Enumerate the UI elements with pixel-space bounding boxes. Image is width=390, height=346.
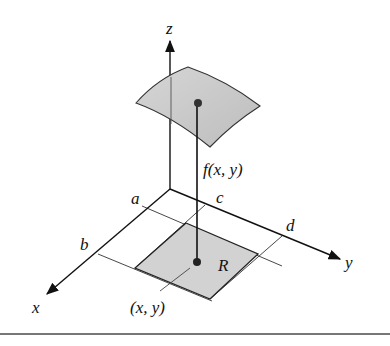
label-c: c <box>216 188 224 207</box>
surface-point <box>194 99 202 107</box>
region-label: R <box>217 256 229 275</box>
point-label: (x, y) <box>130 298 165 317</box>
label-a: a <box>131 189 140 208</box>
label-b: b <box>80 235 89 254</box>
label-d: d <box>286 216 295 235</box>
x-axis-label: x <box>31 298 40 317</box>
double-integral-diagram: z x y a b c d R f(x, y) (x, y) <box>0 0 390 346</box>
x-axis <box>47 189 170 294</box>
region-point <box>193 258 201 266</box>
z-axis-label: z <box>165 19 173 38</box>
function-label: f(x, y) <box>203 160 243 179</box>
y-axis-label: y <box>343 253 353 272</box>
